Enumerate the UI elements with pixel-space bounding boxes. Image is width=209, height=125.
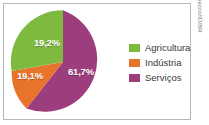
pie-label-servicos: 61,7% xyxy=(68,66,94,77)
pie-chart: 19,2% 19,1% 61,7% xyxy=(9,8,117,116)
legend-item-industria: Indústria xyxy=(129,56,191,70)
legend-label-agricultura: Agricultura xyxy=(145,43,190,53)
legend-swatch-agricultura xyxy=(129,44,140,52)
legend-label-industria: Indústria xyxy=(145,58,181,68)
legend-item-servicos: Serviços xyxy=(129,71,191,85)
legend-swatch-industria xyxy=(129,59,140,67)
legend-label-servicos: Serviços xyxy=(145,73,181,83)
pie-label-agricultura: 19,2% xyxy=(34,37,60,48)
pie-chart-figure: 19,2% 19,1% 61,7% Agricultura Indústria … xyxy=(0,0,209,125)
legend-swatch-servicos xyxy=(129,74,140,82)
legend-item-agricultura: Agricultura xyxy=(129,41,191,55)
pie-label-industria: 19,1% xyxy=(17,70,43,81)
image-credit: Adilson Secco/ID/BR xyxy=(197,4,209,114)
chart-legend: Agricultura Indústria Serviços xyxy=(129,41,191,86)
image-credit-text: Adilson Secco/ID/BR xyxy=(197,0,203,33)
pie-chart-svg xyxy=(9,8,117,116)
